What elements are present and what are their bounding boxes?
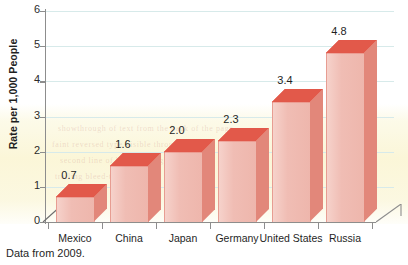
bar-side-face bbox=[148, 153, 161, 222]
x-axis-tick-mark bbox=[264, 223, 265, 229]
bar-mexico[interactable] bbox=[56, 197, 94, 222]
bar-top-face bbox=[164, 139, 202, 152]
y-axis-tick-mark bbox=[40, 187, 46, 188]
figure-caption: Data from 2009. bbox=[6, 247, 85, 259]
bar-top-face bbox=[110, 153, 148, 166]
bar-top-face bbox=[272, 89, 310, 102]
bar-front-face bbox=[326, 53, 365, 222]
bar-top-face bbox=[56, 184, 94, 197]
y-axis-tick-mark bbox=[40, 81, 46, 82]
y-axis-tick-label: 2 bbox=[18, 144, 40, 156]
bar-front-face bbox=[56, 197, 95, 222]
bar-side-face bbox=[364, 40, 377, 222]
y-axis-tick-label: 3 bbox=[18, 109, 40, 121]
x-axis-tick-mark bbox=[372, 223, 373, 229]
bar-united-states[interactable] bbox=[272, 102, 310, 222]
bar-value-label: 2.0 bbox=[149, 124, 205, 136]
bar-front-face bbox=[218, 141, 257, 222]
x-axis-tick-mark bbox=[102, 223, 103, 229]
bar-side-face bbox=[94, 184, 107, 222]
bar-value-label: 1.6 bbox=[95, 138, 151, 150]
y-axis-tick-label: 5 bbox=[18, 38, 40, 50]
y-axis-tick-label: 4 bbox=[18, 73, 40, 85]
x-axis-tick-mark bbox=[318, 223, 319, 229]
bar-value-label: 2.3 bbox=[203, 113, 259, 125]
chart-figure: showthrough of text from the back of the… bbox=[0, 0, 408, 265]
y-axis-tick-mark bbox=[40, 46, 46, 47]
bar-value-label: 3.4 bbox=[257, 74, 313, 86]
bar-value-label: 4.8 bbox=[311, 25, 367, 37]
bar-side-face bbox=[202, 139, 215, 222]
bar-japan[interactable] bbox=[164, 152, 202, 222]
y-axis-tick-label: 6 bbox=[18, 3, 40, 15]
bar-front-face bbox=[110, 166, 149, 222]
y-axis-tick-label: 0 bbox=[18, 214, 40, 226]
bar-front-face bbox=[164, 152, 203, 222]
y-axis-tick-mark bbox=[40, 222, 46, 223]
bar-china[interactable] bbox=[110, 166, 148, 222]
gridline bbox=[46, 11, 394, 12]
y-axis-tick-mark bbox=[40, 117, 46, 118]
y-axis-tick-mark bbox=[40, 11, 46, 12]
bar-russia[interactable] bbox=[326, 53, 364, 222]
bar-front-face bbox=[272, 102, 311, 222]
x-axis-tick-mark bbox=[210, 223, 211, 229]
bar-value-label: 0.7 bbox=[41, 169, 97, 181]
bar-top-face bbox=[218, 128, 256, 141]
bar-top-face bbox=[326, 40, 364, 53]
x-axis-category-label: Russia bbox=[299, 232, 391, 244]
bar-side-face bbox=[256, 128, 269, 222]
bar-germany[interactable] bbox=[218, 141, 256, 222]
x-axis-tick-mark bbox=[156, 223, 157, 229]
bar-side-face bbox=[310, 89, 323, 222]
y-axis-tick-label: 1 bbox=[18, 179, 40, 191]
x-axis-tick-mark bbox=[48, 223, 49, 229]
y-axis-tick-mark bbox=[40, 152, 46, 153]
